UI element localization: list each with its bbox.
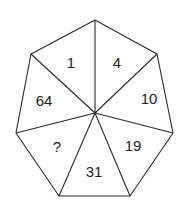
center-point: [94, 112, 97, 115]
sector-value-19: 19: [125, 137, 142, 154]
spoke-line: [16, 113, 95, 133]
sector-value-31: 31: [86, 163, 103, 180]
sector-value-4: 4: [113, 54, 121, 71]
sector-unknown: ?: [53, 138, 61, 155]
heptagon-puzzle: 1 4 10 19 31 ? 64: [0, 0, 185, 206]
sector-value-1: 1: [67, 54, 75, 71]
spoke-line: [95, 113, 173, 133]
sector-value-64: 64: [36, 92, 53, 109]
sector-value-10: 10: [141, 90, 158, 107]
spoke-line: [59, 113, 95, 196]
spoke-line: [95, 113, 130, 196]
